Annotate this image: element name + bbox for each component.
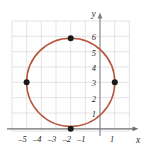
point-left bbox=[24, 79, 30, 85]
y-tick-label: 2 bbox=[92, 94, 97, 104]
point-right bbox=[112, 79, 118, 85]
x-axis-label: x bbox=[135, 135, 141, 145]
y-axis-label: y bbox=[90, 9, 96, 19]
x-tick-label: –2 bbox=[61, 134, 71, 144]
y-tick-label: 6 bbox=[92, 32, 97, 42]
x-axis-arrow bbox=[133, 126, 139, 131]
x-tick-label: –3 bbox=[47, 134, 57, 144]
y-tick-label: 3 bbox=[91, 78, 96, 88]
point-bottom bbox=[68, 126, 74, 132]
point-top bbox=[68, 35, 74, 41]
y-tick-label: 4 bbox=[92, 63, 97, 73]
coordinate-plane-graph: –5 –4 –3 –2 –1 1 1 2 3 4 5 6 y x bbox=[0, 0, 145, 155]
circle-graph-figure: –5 –4 –3 –2 –1 1 1 2 3 4 5 6 y x bbox=[0, 0, 145, 155]
x-tick-label: –1 bbox=[76, 134, 86, 144]
y-tick-label: 1 bbox=[92, 109, 96, 119]
x-tick-label: 1 bbox=[110, 134, 114, 144]
x-tick-label: –5 bbox=[17, 134, 27, 144]
x-tick-label: –4 bbox=[32, 134, 42, 144]
y-tick-label: 5 bbox=[92, 48, 96, 58]
y-axis-arrow bbox=[98, 13, 103, 19]
